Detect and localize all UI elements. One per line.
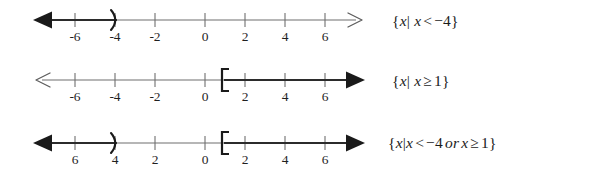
interval-left-arrowhead xyxy=(33,12,52,29)
tick-label: 0 xyxy=(188,30,222,44)
value: −4 xyxy=(426,134,443,151)
set-builder-notation-1: {x| x<−4} xyxy=(392,12,459,30)
tick-label: -4 xyxy=(98,30,132,44)
conjunction-or: or xyxy=(443,134,461,151)
number-line-graph-3 xyxy=(0,120,400,180)
close-brace: } xyxy=(451,12,459,29)
open-brace: { xyxy=(392,72,400,89)
variable: x xyxy=(400,72,407,89)
tick-label: -6 xyxy=(58,90,92,104)
tick-label: -2 xyxy=(138,90,172,104)
tick-label: 4 xyxy=(268,153,302,167)
set-builder-notation-3: {x|x<−4orx≥1} xyxy=(388,134,497,152)
tick-label: -2 xyxy=(138,30,172,44)
interval-right-arrowhead xyxy=(346,72,365,89)
operator: ≥ xyxy=(468,134,481,151)
tick-label: 2 xyxy=(228,30,262,44)
tick-label: 6 xyxy=(58,153,92,167)
tick-label: 6 xyxy=(308,30,342,44)
tick-label: -4 xyxy=(98,90,132,104)
such-that-bar: | xyxy=(407,12,410,29)
value: −4 xyxy=(434,12,451,29)
number-line-figure: -6 -4 -2 0 2 4 6 {x| x<−4} xyxy=(0,0,594,180)
operator: < xyxy=(421,12,434,29)
interval-right-arrowhead xyxy=(346,135,365,152)
tick-label: 2 xyxy=(228,153,262,167)
such-that-bar: | xyxy=(407,72,410,89)
number-line-row-1: -6 -4 -2 0 2 4 6 {x| x<−4} xyxy=(0,0,594,60)
operator: ≥ xyxy=(421,72,434,89)
tick-label: 4 xyxy=(98,153,132,167)
close-brace: } xyxy=(442,72,450,89)
tick-label: 2 xyxy=(228,90,262,104)
open-brace: { xyxy=(392,12,400,29)
close-brace: } xyxy=(489,134,497,151)
variable: x xyxy=(396,134,403,151)
tick-label: 0 xyxy=(188,90,222,104)
tick-label: 6 xyxy=(308,90,342,104)
tick-label: 2 xyxy=(138,153,172,167)
value: 1 xyxy=(481,134,489,151)
number-line-row-2: -6 -4 -2 0 2 4 6 {x| x≥1} xyxy=(0,60,594,120)
tick-label: 6 xyxy=(308,153,342,167)
variable: x xyxy=(400,12,407,29)
value: 1 xyxy=(434,72,442,89)
open-brace: { xyxy=(388,134,396,151)
number-line-row-3: 6 4 2 0 2 4 6 {x|x<−4orx≥1} xyxy=(0,120,594,180)
interval-left-arrowhead xyxy=(33,135,52,152)
set-builder-notation-2: {x| x≥1} xyxy=(392,72,450,90)
tick-label: 0 xyxy=(188,153,222,167)
tick-label: -6 xyxy=(58,30,92,44)
tick-label: 4 xyxy=(268,90,302,104)
operator: < xyxy=(413,134,426,151)
tick-label: 4 xyxy=(268,30,302,44)
